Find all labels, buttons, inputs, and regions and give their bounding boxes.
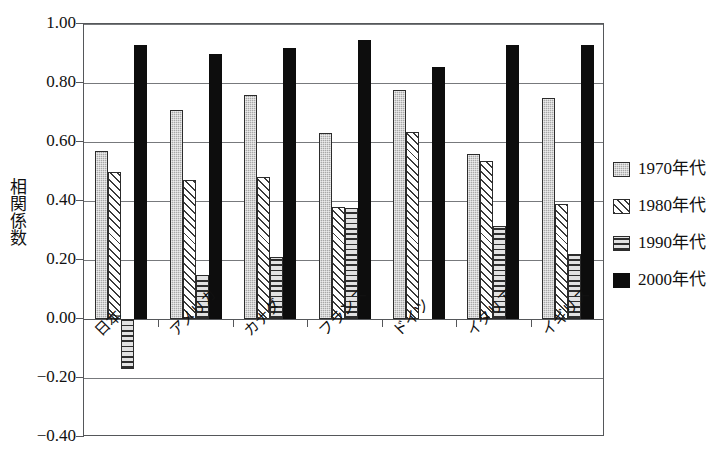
x-axis-tick-mark [531, 319, 532, 327]
bar [568, 254, 581, 319]
legend: 1970年代1980年代1990年代2000年代 [613, 155, 725, 303]
y-axis-tick-label: 0.00 [24, 309, 76, 326]
bar [506, 45, 519, 319]
bar [393, 90, 406, 319]
bar [467, 154, 480, 319]
legend-swatch [613, 162, 630, 177]
bar [257, 177, 270, 319]
legend-swatch [613, 199, 630, 214]
bar [319, 133, 332, 319]
gridline [84, 201, 603, 202]
gridline [84, 24, 603, 25]
legend-label: 1970年代 [638, 160, 706, 178]
legend-item: 1970年代 [613, 155, 725, 183]
x-axis-tick-mark [233, 319, 234, 327]
bar [196, 275, 209, 319]
legend-label: 1980年代 [638, 197, 706, 215]
bar [121, 319, 134, 369]
x-axis-tick-mark [158, 319, 159, 327]
bar [170, 110, 183, 319]
bar [209, 54, 222, 320]
bar [493, 226, 506, 319]
bar [432, 67, 445, 319]
legend-swatch [613, 273, 630, 288]
gridline [84, 378, 603, 379]
bar [581, 45, 594, 319]
bar [332, 207, 345, 319]
y-axis-tick-label: 1.00 [24, 14, 76, 31]
gridline [84, 142, 603, 143]
bar [345, 208, 358, 319]
legend-swatch [613, 236, 630, 251]
legend-label: 2000年代 [638, 271, 706, 289]
x-axis-tick-mark [382, 319, 383, 327]
legend-item: 2000年代 [613, 266, 725, 294]
bar [406, 132, 419, 319]
bar [542, 98, 555, 319]
y-axis-tick-label: −0.20 [24, 368, 76, 385]
x-axis-tick-mark [456, 319, 457, 327]
legend-item: 1980年代 [613, 192, 725, 220]
legend-item: 1990年代 [613, 229, 725, 257]
y-axis-tick-label: −0.40 [24, 427, 76, 444]
bar [480, 161, 493, 319]
bar [555, 204, 568, 319]
bar [270, 257, 283, 319]
gridline [84, 319, 603, 320]
bar [244, 95, 257, 319]
gridline [84, 83, 603, 84]
bar [108, 172, 121, 320]
bar [183, 180, 196, 319]
bar [95, 151, 108, 319]
y-axis-tick-mark [76, 436, 84, 437]
bar-chart: 相関係数 1.000.800.600.400.200.00−0.20−0.40 … [0, 0, 728, 450]
y-axis-tick-labels: 1.000.800.600.400.200.00−0.20−0.40 [20, 0, 76, 450]
plot-area [83, 23, 604, 436]
y-axis-tick-label: 0.40 [24, 191, 76, 208]
x-axis-tick-mark [307, 319, 308, 327]
bar [283, 48, 296, 319]
legend-label: 1990年代 [638, 234, 706, 252]
y-axis-tick-label: 0.20 [24, 250, 76, 267]
y-axis-tick-label: 0.80 [24, 73, 76, 90]
bar [358, 40, 371, 319]
y-axis-tick-label: 0.60 [24, 132, 76, 149]
bar [134, 45, 147, 319]
